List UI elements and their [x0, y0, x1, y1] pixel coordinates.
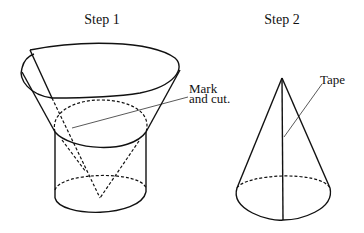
- cylinder-top-hidden-arc: [54, 100, 147, 132]
- cone-right-side: [282, 78, 330, 188]
- tape-label: Tape: [320, 72, 345, 87]
- cylinder-bottom-front: [55, 192, 146, 212]
- cone-base-back: [237, 176, 330, 188]
- funnel-cylinder-figure: [21, 43, 180, 212]
- funnel-bottom-curve: [55, 132, 146, 147]
- diagram-canvas: Step 1 Mark and cut. Step 2: [0, 0, 364, 233]
- inner-cone-right: [100, 141, 139, 198]
- funnel-left-side: [22, 72, 55, 132]
- cone-left-side: [237, 78, 282, 188]
- tape-leader-line: [284, 84, 322, 137]
- cone-figure: [236, 78, 330, 220]
- mark-leader-line: [72, 97, 188, 128]
- inner-cone-left: [52, 98, 100, 198]
- step1-title: Step 1: [84, 12, 119, 27]
- cone-seam: [282, 78, 283, 220]
- cylinder-bottom-back: [55, 175, 146, 190]
- cut-label: and cut.: [189, 91, 230, 106]
- funnel-right-side: [146, 70, 180, 132]
- step2-title: Step 2: [264, 12, 299, 27]
- funnel-top-rim: [21, 43, 179, 98]
